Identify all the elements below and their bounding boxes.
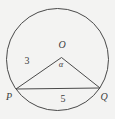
angle-label-alpha: α (59, 60, 63, 69)
point-label-P: P (6, 92, 12, 102)
geometry-figure: O α 3 5 P Q (0, 0, 115, 119)
figure-canvas (0, 0, 115, 119)
point-label-O: O (58, 40, 65, 50)
side-label-PQ: 5 (61, 94, 66, 104)
point-label-Q: Q (100, 92, 107, 102)
side-label-OP: 3 (25, 56, 30, 66)
circle-outline (7, 9, 109, 111)
